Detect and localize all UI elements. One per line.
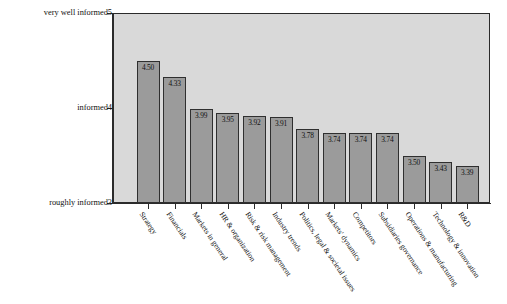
bar: 3.50 <box>403 156 426 204</box>
x-axis-tick <box>334 204 335 209</box>
bar: 3.39 <box>456 166 479 203</box>
bar-value-label: 3.74 <box>324 136 345 144</box>
x-axis-category-label: Risk & risk management <box>244 210 294 278</box>
bar: 3.91 <box>270 117 293 203</box>
bar-value-label: 3.95 <box>217 116 238 124</box>
x-axis-category-label: Technology & innovation <box>430 210 481 280</box>
bar-value-label: 3.39 <box>457 169 478 177</box>
x-axis-tick <box>414 204 415 209</box>
bar: 3.99 <box>190 109 213 203</box>
x-axis-tick <box>228 204 229 209</box>
x-axis-tick <box>148 204 149 209</box>
x-axis-category-label: Strategy <box>138 210 160 236</box>
x-axis-category-label: Subsidiaries governance <box>377 210 426 276</box>
bar-value-label: 4.33 <box>164 80 185 88</box>
bar-chart: 4.504.333.993.953.923.913.783.743.743.74… <box>0 0 507 304</box>
bar: 3.78 <box>296 129 319 203</box>
y-axis-tick-number: 4 <box>108 103 112 112</box>
bar: 3.95 <box>216 113 239 203</box>
x-axis-tick <box>441 204 442 209</box>
bar-value-label: 3.91 <box>271 120 292 128</box>
x-axis-tick <box>281 204 282 209</box>
bar-value-label: 4.50 <box>138 64 159 72</box>
bar-value-label: 3.74 <box>377 136 398 144</box>
y-axis-tick-label: roughly informed <box>49 198 108 207</box>
bar-value-label: 3.43 <box>430 165 451 173</box>
bars-layer: 4.504.333.993.953.923.913.783.743.743.74… <box>113 13 490 203</box>
bar: 3.43 <box>429 162 452 203</box>
y-axis-tick-label: very well informed <box>44 8 108 17</box>
bar: 3.92 <box>243 116 266 203</box>
x-axis-tick <box>201 204 202 209</box>
x-axis-tick <box>361 204 362 209</box>
x-axis-category-label: Financials <box>164 210 189 241</box>
x-axis-tick <box>308 204 309 209</box>
bar-value-label: 3.78 <box>297 132 318 140</box>
x-axis-category-label: Operations & manufacturing <box>404 210 460 287</box>
bar: 3.74 <box>376 133 399 203</box>
x-axis-line <box>112 203 491 204</box>
bar: 4.33 <box>163 77 186 203</box>
x-axis-category-label: Competitors <box>350 210 378 246</box>
x-axis-category-label: R&D <box>457 210 474 229</box>
x-axis-tick <box>387 204 388 209</box>
bar: 3.74 <box>323 133 346 203</box>
bar-value-label: 3.74 <box>350 136 371 144</box>
y-axis-tick-number: 5 <box>108 8 112 17</box>
bar: 3.74 <box>349 133 372 203</box>
bar-value-label: 3.92 <box>244 119 265 127</box>
x-axis-tick <box>175 204 176 209</box>
bar: 4.50 <box>137 61 160 204</box>
x-axis-tick <box>254 204 255 209</box>
bar-value-label: 3.99 <box>191 112 212 120</box>
x-axis-tick <box>467 204 468 209</box>
bar-value-label: 3.50 <box>404 159 425 167</box>
y-axis-tick-label: informed <box>77 103 108 112</box>
